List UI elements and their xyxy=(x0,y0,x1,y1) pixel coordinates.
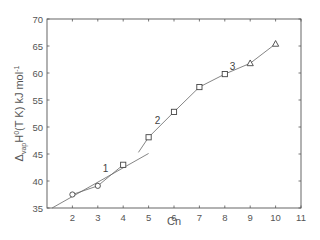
y-tick-label: 45 xyxy=(32,149,43,160)
y-tick-label: 65 xyxy=(32,41,43,52)
square-marker xyxy=(197,84,202,89)
x-tick-label: 7 xyxy=(197,212,202,223)
ylabel-sub: vap xyxy=(20,143,28,154)
x-tick-label: 3 xyxy=(95,212,100,223)
square-marker xyxy=(222,71,227,76)
x-tick-label: 4 xyxy=(121,212,126,223)
segment-label: 3 xyxy=(230,61,236,72)
y-tick-label: 35 xyxy=(32,203,43,214)
segment-label: 2 xyxy=(155,115,161,126)
square-marker xyxy=(171,109,176,114)
circle-marker xyxy=(95,183,100,188)
chart: 234567891011 3540455055606570 123 Cn Δva… xyxy=(0,0,320,240)
ylabel-h: H xyxy=(13,135,25,143)
triangle-marker xyxy=(273,41,279,47)
square-marker xyxy=(121,162,126,167)
circle-marker xyxy=(70,192,75,197)
x-tick-label: 5 xyxy=(146,212,151,223)
y-tick-label: 60 xyxy=(32,68,43,79)
y-tick-label: 50 xyxy=(32,122,43,133)
x-axis: 234567891011 xyxy=(70,19,306,223)
y-tick-label: 40 xyxy=(32,176,43,187)
y-tick-label: 55 xyxy=(32,95,43,106)
fit-line-1b xyxy=(72,165,123,195)
fit-line-1 xyxy=(52,153,149,208)
x-axis-title: Cn xyxy=(167,215,181,227)
x-tick-label: 9 xyxy=(248,212,253,223)
x-tick-label: 10 xyxy=(270,212,281,223)
ylabel-rest: (T K) kJ mol xyxy=(13,72,25,131)
fit-lines xyxy=(52,44,276,208)
fit-line-3 xyxy=(199,44,275,87)
y-tick-label: 70 xyxy=(32,14,43,25)
y-axis-title-text: ΔvapH0(T K) kJ mol-1 xyxy=(13,65,28,161)
ylabel-unit-sup: -1 xyxy=(13,65,20,71)
x-tick-label: 8 xyxy=(222,212,227,223)
x-tick-label: 2 xyxy=(70,212,75,223)
x-tick-label: 11 xyxy=(296,212,306,223)
y-axis-title: ΔvapH0(T K) kJ mol-1 xyxy=(13,65,28,161)
segment-label: 1 xyxy=(103,163,109,174)
square-marker xyxy=(146,135,151,140)
triangle-marker xyxy=(247,60,253,66)
fit-line-2 xyxy=(138,87,199,152)
y-axis: 3540455055606570 xyxy=(32,14,301,214)
data-markers xyxy=(70,41,279,198)
